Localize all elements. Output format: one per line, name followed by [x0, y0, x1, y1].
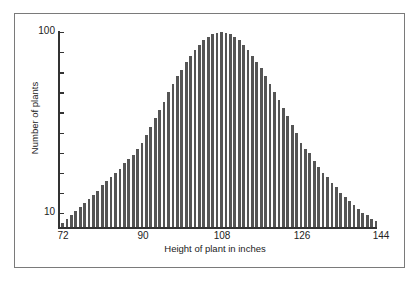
- bar: [304, 149, 307, 227]
- bar: [216, 33, 219, 227]
- bar: [242, 45, 245, 227]
- bar: [278, 100, 281, 227]
- bar: [326, 177, 329, 227]
- bar: [79, 207, 82, 227]
- bar: [132, 155, 135, 227]
- bar: [348, 201, 351, 227]
- bar: [308, 153, 311, 227]
- bar: [198, 45, 201, 227]
- bar: [185, 62, 188, 227]
- bar: [282, 108, 285, 227]
- bar: [251, 56, 254, 227]
- bar: [172, 84, 175, 227]
- bar: [238, 40, 241, 227]
- bar-series: [0, 0, 416, 283]
- bar: [145, 135, 148, 227]
- bar: [136, 149, 139, 227]
- bar: [370, 219, 373, 227]
- bar: [92, 195, 95, 227]
- bar: [291, 125, 294, 227]
- bar: [207, 37, 210, 227]
- bar: [163, 102, 166, 227]
- bar: [366, 215, 369, 227]
- bar: [83, 203, 86, 227]
- bar: [220, 32, 223, 227]
- bar: [74, 211, 77, 227]
- bar: [260, 68, 263, 227]
- bar: [353, 205, 356, 227]
- bar: [154, 118, 157, 227]
- bar: [127, 159, 130, 227]
- bar: [286, 116, 289, 227]
- bar: [273, 92, 276, 227]
- bar: [264, 76, 267, 227]
- bar: [61, 223, 64, 227]
- bar: [167, 92, 170, 227]
- bar: [339, 193, 342, 227]
- bar: [361, 213, 364, 227]
- bar: [229, 34, 232, 227]
- bar: [101, 185, 104, 227]
- bar: [313, 161, 316, 227]
- bar: [119, 169, 122, 227]
- bar: [344, 197, 347, 227]
- bar: [233, 37, 236, 227]
- bar: [269, 84, 272, 227]
- bar: [335, 187, 338, 227]
- bar: [202, 40, 205, 227]
- bar: [110, 177, 113, 227]
- bar: [189, 56, 192, 227]
- bar: [176, 76, 179, 227]
- bar: [357, 209, 360, 227]
- bar: [225, 33, 228, 227]
- bar: [96, 191, 99, 227]
- bar: [149, 127, 152, 227]
- bar: [66, 219, 69, 227]
- bar: [375, 221, 378, 227]
- bar: [141, 143, 144, 227]
- bar: [295, 133, 298, 227]
- bar: [317, 167, 320, 227]
- bar: [123, 163, 126, 227]
- bar: [180, 70, 183, 227]
- bar: [300, 143, 303, 227]
- bar: [211, 34, 214, 227]
- bar: [158, 110, 161, 227]
- bar: [194, 50, 197, 227]
- bar: [255, 62, 258, 227]
- bar: [88, 199, 91, 227]
- bar: [331, 183, 334, 227]
- bar: [247, 50, 250, 227]
- bar: [322, 173, 325, 227]
- bar: [114, 173, 117, 227]
- bar: [70, 215, 73, 227]
- bar: [105, 181, 108, 227]
